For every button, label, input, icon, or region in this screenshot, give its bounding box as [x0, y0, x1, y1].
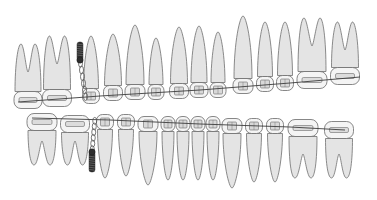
- tooth-root: [289, 137, 317, 179]
- lower-tooth-premolar: [246, 119, 263, 183]
- tooth-root: [84, 36, 99, 89]
- lower-miniscrew: [89, 117, 97, 172]
- upper-tooth-premolar: [83, 36, 100, 104]
- lower-arch: [27, 114, 354, 189]
- tooth-root: [177, 132, 189, 181]
- tooth-root: [119, 130, 134, 177]
- tooth-root: [44, 36, 71, 90]
- upper-tooth-lateral: [148, 38, 164, 100]
- tooth-root: [211, 32, 225, 83]
- miniscrew-head: [77, 57, 83, 63]
- upper-tooth-molar: [297, 18, 327, 89]
- lower-tooth-incisor: [191, 117, 205, 181]
- lower-tooth-incisor: [176, 117, 190, 181]
- upper-tooth-premolar: [277, 22, 294, 91]
- tooth-root: [126, 25, 144, 85]
- miniscrew-head: [89, 149, 95, 155]
- tooth-root: [332, 22, 359, 68]
- lower-tooth-premolar: [267, 119, 284, 183]
- upper-tooth-canine: [125, 25, 145, 100]
- tooth-root: [15, 44, 41, 92]
- upper-tooth-molar: [43, 36, 72, 107]
- upper-tooth-molar: [331, 22, 360, 85]
- lower-tooth-premolar: [97, 115, 114, 179]
- tooth-root: [62, 133, 89, 166]
- upper-arch: [14, 16, 360, 109]
- tooth-root: [247, 134, 262, 183]
- tooth-root: [258, 22, 273, 77]
- tooth-root: [207, 132, 219, 181]
- tooth-root: [98, 130, 113, 179]
- upper-tooth-premolar: [257, 22, 274, 92]
- dental-diagram: [0, 0, 377, 200]
- tooth-root: [105, 34, 122, 86]
- buccal-tube: [66, 122, 85, 127]
- tooth-root: [278, 22, 293, 76]
- orthodontic-arches-illustration: [0, 0, 377, 200]
- lower-tooth-canine: [138, 117, 158, 186]
- lower-tooth-incisor: [206, 117, 220, 181]
- tooth-root: [191, 26, 207, 83]
- upper-tooth-premolar: [104, 34, 123, 101]
- tooth-root: [223, 134, 241, 189]
- lower-tooth-molar: [27, 114, 57, 166]
- tooth-root: [298, 18, 326, 72]
- tooth-root: [268, 134, 283, 183]
- lower-tooth-incisor: [161, 117, 175, 181]
- lower-tooth-molar: [61, 116, 90, 166]
- upper-tooth-central: [170, 27, 189, 99]
- tooth-root: [234, 16, 252, 79]
- tooth-root: [149, 38, 163, 85]
- lower-tooth-canine: [222, 119, 242, 189]
- lower-tooth-premolar: [118, 115, 135, 177]
- buccal-tube: [32, 120, 52, 125]
- tooth-root: [162, 132, 174, 181]
- upper-tooth-central: [190, 26, 208, 98]
- tooth-root: [326, 139, 353, 179]
- tooth-root: [171, 27, 188, 84]
- tooth-root: [192, 132, 204, 181]
- upper-tooth-lateral: [210, 32, 226, 98]
- tooth-root: [139, 132, 157, 186]
- tooth-root: [28, 131, 56, 166]
- upper-tooth-molar: [14, 44, 42, 109]
- upper-tooth-canine: [233, 16, 253, 94]
